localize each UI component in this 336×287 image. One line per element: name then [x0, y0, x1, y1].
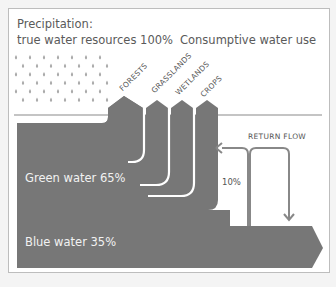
return-flow-percent: 10% [222, 177, 241, 187]
blue-water-label: Blue water 35% [25, 235, 116, 249]
title-line-1: Precipitation: [17, 16, 173, 32]
precipitation-title: Precipitation: true water resources 100% [17, 16, 173, 48]
consumptive-use-label: Consumptive water use [180, 33, 316, 47]
title-line-2: true water resources 100% [17, 32, 173, 48]
green-water-label: Green water 65% [25, 171, 125, 185]
return-flow-label: RETURN FLOW [248, 132, 306, 141]
rain-drops-icon [15, 55, 108, 102]
